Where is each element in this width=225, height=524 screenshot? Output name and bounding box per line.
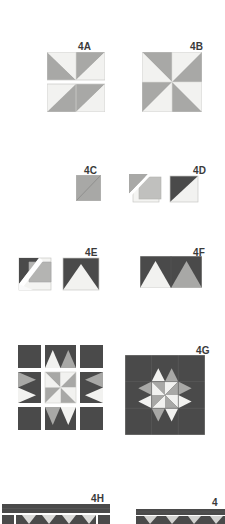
exploded-right-geese (80, 372, 103, 403)
unit-4e-in-progress (19, 258, 51, 290)
figure-label-4a: 4A (78, 41, 91, 52)
figure-4e (17, 256, 101, 292)
figure-4d (129, 173, 201, 205)
figure-4b (142, 52, 202, 112)
figure-4a (47, 52, 105, 112)
unit-4d-finished (170, 176, 198, 202)
unit-4d-in-progress (129, 174, 161, 202)
figure-4h (2, 504, 110, 524)
figure-label-4b: 4B (190, 41, 203, 52)
figure-4-exploded-layout (18, 345, 103, 430)
unit-4a-top (47, 52, 105, 80)
figure-4g (125, 355, 205, 435)
figure-4c (76, 175, 101, 201)
exploded-center-pinwheel (45, 372, 76, 403)
figure-label-4h: 4H (91, 493, 104, 504)
exploded-bottom-geese (45, 407, 76, 430)
figure-4i (136, 509, 225, 524)
exploded-left-geese (18, 372, 41, 403)
figure-label-4i: 4 (212, 497, 218, 508)
diagram-sheet: 4A 4B (0, 0, 225, 524)
exploded-top-geese (45, 345, 76, 368)
unit-4e-finished (63, 258, 99, 290)
figure-4f (140, 256, 202, 288)
unit-4a-bottom (47, 84, 105, 112)
